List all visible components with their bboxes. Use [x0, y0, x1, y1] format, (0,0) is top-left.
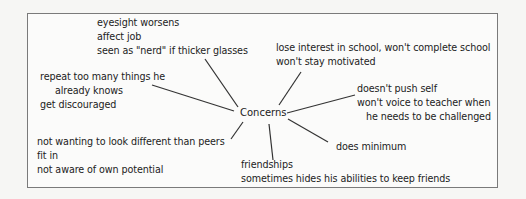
branch-minimum: does minimum: [336, 140, 406, 154]
branch-text: not aware of own potential: [37, 163, 225, 177]
branch-push: doesn't push self won't voice to teacher…: [357, 82, 491, 124]
link-eyesight: [205, 59, 238, 107]
branch-peers: not wanting to look different than peers…: [37, 135, 225, 177]
center-node-concerns: Concerns: [240, 106, 287, 120]
branch-repeat: repeat too many things he already knows …: [40, 70, 165, 112]
branch-text: won't voice to teacher when: [357, 96, 491, 110]
branch-text: does minimum: [336, 140, 406, 154]
branch-text: won't stay motivated: [276, 55, 490, 69]
branch-text: get discouraged: [40, 98, 165, 112]
branch-text: affect job: [97, 30, 248, 44]
branch-text: seen as "nerd" if thicker glasses: [97, 44, 248, 58]
link-peers: [231, 122, 243, 139]
branch-text: lose interest in school, won't complete …: [276, 41, 490, 55]
branch-text: sometimes hides his abilities to keep fr…: [241, 172, 450, 186]
link-interest: [279, 72, 301, 105]
branch-text: doesn't push self: [357, 82, 491, 96]
branch-text: eyesight worsens: [97, 16, 248, 30]
link-minimum: [288, 119, 328, 142]
branch-text: he needs to be challenged: [357, 110, 491, 124]
branch-text: repeat too many things he: [40, 70, 165, 84]
branch-text: fit in: [37, 149, 225, 163]
branch-eyesight: eyesight worsens affect job seen as "ner…: [97, 16, 248, 58]
branch-text: already knows: [40, 84, 165, 98]
concept-map-canvas: Concerns eyesight worsens affect job see…: [0, 0, 526, 199]
branch-interest: lose interest in school, won't complete …: [276, 41, 490, 69]
branch-text: friendships: [241, 158, 450, 172]
link-friendships: [269, 124, 273, 160]
branch-text: not wanting to look different than peers: [37, 135, 225, 149]
branch-friendships: friendships sometimes hides his abilitie…: [241, 158, 450, 186]
link-push: [287, 95, 355, 113]
